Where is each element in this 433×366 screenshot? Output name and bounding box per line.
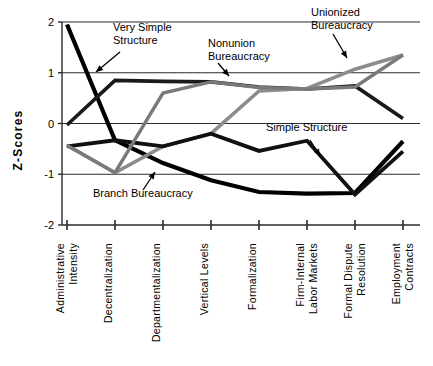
category-label: Labor Markets [307, 243, 319, 314]
category-label: Vertical Levels [198, 243, 210, 315]
chart-container: 210-1-2 AdministrativeIntensityDecentral… [0, 0, 433, 366]
category-label: Intensity [67, 243, 79, 285]
annotation-label: Structure [113, 34, 158, 46]
annotation-arrowhead [149, 172, 155, 180]
y-tick-label: 2 [48, 16, 54, 28]
y-tick-label: -2 [44, 219, 54, 231]
y-tick-label: 1 [48, 67, 54, 79]
y-tick-label: 0 [48, 118, 54, 130]
category-label: Administrative [54, 243, 66, 313]
y-tick-label: -1 [44, 168, 54, 180]
category-label: Formal Dispute [342, 243, 354, 318]
annotation-label: Nonunion [208, 37, 255, 49]
x-axis-category-labels: AdministrativeIntensityDecentralizationD… [54, 243, 415, 343]
category-label: Resolution [355, 243, 367, 296]
annotation-label: Unionized [311, 6, 360, 18]
category-label: Contracts [403, 243, 415, 291]
line-chart: 210-1-2 AdministrativeIntensityDecentral… [0, 0, 433, 366]
y-axis-title: Z-Scores [11, 110, 25, 171]
x-axis [62, 220, 420, 230]
category-label: Firm-Internal [294, 243, 306, 306]
category-label: Decentralization [102, 243, 114, 323]
annotation-label: Bureaucracy [208, 50, 270, 62]
annotation-label: Bureaucracy [311, 19, 373, 31]
category-label: Employment [390, 243, 402, 304]
category-label: Formalization [246, 243, 258, 310]
category-label: Departmentalization [150, 243, 162, 342]
annotation-label: Simple Structure [266, 121, 347, 133]
y-axis-ticks: 210-1-2 [44, 16, 62, 231]
annotation-label: Very Simple [113, 21, 172, 33]
